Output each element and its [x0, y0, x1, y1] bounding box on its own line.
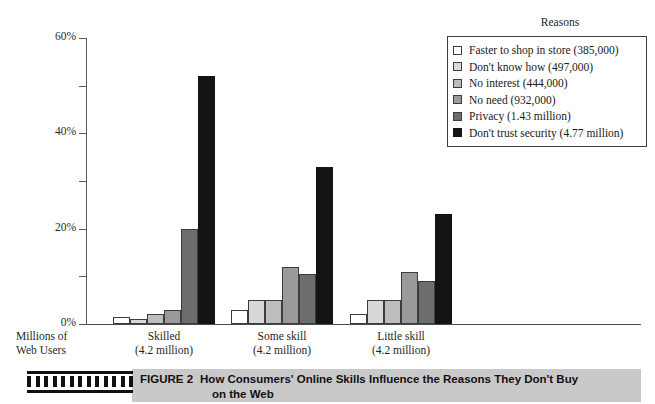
bar: [248, 300, 265, 324]
y-tick-0: [79, 324, 87, 325]
legend-item: Don't trust security (4.77 million): [453, 125, 640, 142]
legend-item: Faster to shop in store (385,000): [453, 42, 640, 59]
decorative-dash: [104, 376, 108, 387]
decorative-rule-top: [27, 371, 133, 374]
bar: [130, 319, 147, 324]
y-tick-label-0: 0%: [32, 317, 76, 328]
y-tick-minor-10: [79, 276, 86, 277]
y-tick-minor-30: [79, 181, 86, 182]
decorative-dash: [61, 376, 65, 387]
legend-swatch-icon: [453, 62, 462, 71]
legend-item-label: Faster to shop in store (385,000): [469, 44, 618, 56]
decorative-dash: [129, 376, 133, 387]
decorative-dash: [36, 376, 40, 387]
bar: [316, 167, 333, 324]
bar: [435, 214, 452, 324]
legend-box: Faster to shop in store (385,000)Don't k…: [447, 36, 647, 147]
legend-item-label: No interest (444,000): [469, 77, 568, 89]
decorative-dash: [121, 376, 125, 387]
bar: [350, 314, 367, 324]
decorative-dash: [95, 376, 99, 387]
legend-swatch-icon: [453, 112, 462, 121]
legend-swatch-icon: [453, 46, 462, 55]
figure-number: FIGURE 2: [140, 373, 193, 385]
decorative-dash: [78, 376, 82, 387]
bar: [113, 317, 130, 324]
decorative-dash: [112, 376, 116, 387]
decorative-dash: [53, 376, 57, 387]
y-tick-60: [79, 38, 87, 39]
legend-swatch-icon: [453, 128, 462, 137]
category-sublabel: (4.2 million): [326, 344, 476, 358]
y-tick-40: [79, 133, 87, 134]
legend-item: Don't know how (497,000): [453, 59, 640, 76]
decorative-rule: [27, 371, 133, 393]
bar: [282, 267, 299, 324]
decorative-dash: [27, 376, 31, 387]
bar-group: [113, 38, 215, 324]
decorative-dash: [87, 376, 91, 387]
legend-item-label: No need (932,000): [469, 94, 556, 106]
bar: [181, 229, 198, 324]
bar-group: [350, 38, 452, 324]
bar: [198, 76, 215, 324]
bar: [164, 310, 181, 324]
bar-group: [231, 38, 333, 324]
legend-item-label: Privacy (1.43 million): [469, 110, 571, 122]
bar: [265, 300, 282, 324]
figure-caption: FIGURE 2How Consumers' Online Skills Inf…: [140, 372, 640, 401]
category-label-2: Little skill(4.2 million): [326, 330, 476, 357]
decorative-dash: [44, 376, 48, 387]
x-axis-caption-line1: Millions of: [16, 330, 94, 344]
x-axis-line: [86, 324, 641, 325]
bar: [401, 272, 418, 324]
y-tick-20: [79, 229, 87, 230]
legend-item-label: Don't know how (497,000): [469, 61, 593, 73]
bar: [231, 310, 248, 324]
bar: [299, 274, 316, 324]
y-tick-label-60: 60%: [32, 31, 76, 42]
legend-item-label: Don't trust security (4.77 million): [469, 127, 623, 139]
legend-item: No interest (444,000): [453, 75, 640, 92]
category-name: Little skill: [326, 330, 476, 344]
legend-item: No need (932,000): [453, 92, 640, 109]
figure-root: 60%40%20%0% Skilled(4.2 million)Some ski…: [0, 0, 655, 404]
decorative-rule-bottom: [27, 390, 133, 393]
y-tick-minor-50: [79, 86, 86, 87]
bar: [367, 300, 384, 324]
decorative-dash: [70, 376, 74, 387]
bar: [384, 300, 401, 324]
figure-caption-line2: on the Web: [140, 387, 640, 402]
legend-swatch-icon: [453, 95, 462, 104]
legend-title: Reasons: [470, 16, 650, 28]
x-axis-caption-line2: Web Users: [16, 344, 94, 358]
figure-caption-line1: How Consumers' Online Skills Influence t…: [200, 373, 578, 385]
legend-item: Privacy (1.43 million): [453, 108, 640, 125]
legend-swatch-icon: [453, 79, 462, 88]
decorative-dashes: [27, 376, 133, 387]
bar: [147, 314, 164, 324]
y-tick-label-20: 20%: [32, 222, 76, 233]
bar: [418, 281, 435, 324]
y-tick-label-40: 40%: [32, 126, 76, 137]
x-axis-caption: Millions of Web Users: [16, 330, 94, 357]
